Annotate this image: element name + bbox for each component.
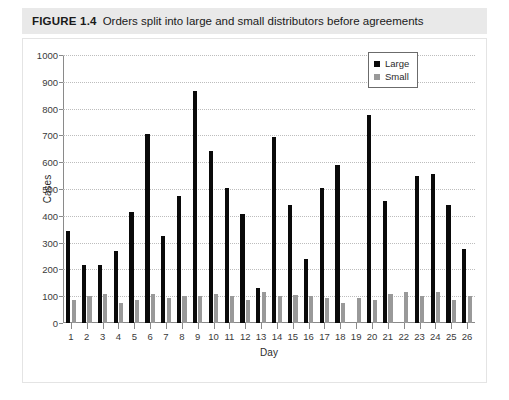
square-filled-icon — [374, 61, 380, 67]
bar-large[interactable] — [304, 259, 308, 323]
bar-large[interactable] — [225, 188, 229, 323]
x-tick-mark — [229, 323, 230, 329]
bar-group-day[interactable] — [174, 55, 190, 323]
bar-large[interactable] — [335, 165, 339, 323]
bar-small[interactable] — [103, 294, 107, 323]
bar-group-day[interactable] — [126, 55, 142, 323]
bar-small[interactable] — [404, 292, 408, 323]
bar-small[interactable] — [388, 294, 392, 323]
bar-group-day[interactable] — [317, 55, 333, 323]
bar-group-day[interactable] — [237, 55, 253, 323]
bar-group-day[interactable] — [396, 55, 412, 323]
bar-large[interactable] — [256, 288, 260, 323]
bar-group-day[interactable] — [380, 55, 396, 323]
x-tick-label: 21 — [383, 331, 394, 342]
bar-small[interactable] — [373, 300, 377, 323]
bar-large[interactable] — [320, 188, 324, 323]
bar-large[interactable] — [209, 151, 213, 323]
bar-group-day[interactable] — [95, 55, 111, 323]
bar-large[interactable] — [383, 201, 387, 323]
bar-large[interactable] — [193, 91, 197, 323]
bar-group-day[interactable] — [348, 55, 364, 323]
bar-large[interactable] — [177, 196, 181, 323]
bar-group-day[interactable] — [332, 55, 348, 323]
x-tick-label: 19 — [351, 331, 362, 342]
bar-group-day[interactable] — [158, 55, 174, 323]
bar-small[interactable] — [436, 292, 440, 323]
bar-small[interactable] — [72, 300, 76, 323]
bar-small[interactable] — [420, 296, 424, 323]
bar-large[interactable] — [129, 212, 133, 323]
bar-large[interactable] — [145, 134, 149, 323]
legend-item-label: Large — [385, 58, 409, 69]
bar-group-day[interactable] — [253, 55, 269, 323]
x-tick-mark — [87, 323, 88, 329]
x-tick-mark — [150, 323, 151, 329]
bar-small[interactable] — [293, 295, 297, 323]
bar-large[interactable] — [462, 249, 466, 323]
bar-small[interactable] — [167, 298, 171, 323]
bar-group-day[interactable] — [221, 55, 237, 323]
bar-small[interactable] — [151, 294, 155, 323]
bar-group-day[interactable] — [63, 55, 79, 323]
bar-small[interactable] — [325, 298, 329, 323]
bar-group-day[interactable] — [190, 55, 206, 323]
bar-small[interactable] — [135, 300, 139, 323]
bar-small[interactable] — [357, 298, 361, 323]
x-tick-mark — [118, 323, 119, 329]
y-tick-label: 200 — [42, 264, 58, 275]
x-tick-label: 5 — [132, 331, 137, 342]
bar-small[interactable] — [119, 303, 123, 323]
bar-large[interactable] — [66, 231, 70, 323]
bar-group-day[interactable] — [79, 55, 95, 323]
bar-small[interactable] — [214, 294, 218, 323]
bar-group-day[interactable] — [459, 55, 475, 323]
bar-group-day[interactable] — [142, 55, 158, 323]
bar-large[interactable] — [431, 174, 435, 323]
x-tick-label: 25 — [446, 331, 457, 342]
legend-item[interactable]: Large — [374, 57, 409, 70]
bar-group-day[interactable] — [412, 55, 428, 323]
bar-small[interactable] — [87, 296, 91, 323]
x-tick-mark — [277, 323, 278, 329]
x-tick-label: 10 — [208, 331, 219, 342]
bar-large[interactable] — [82, 265, 86, 323]
y-tick-label: 100 — [42, 291, 58, 302]
bar-large[interactable] — [240, 214, 244, 323]
x-tick-mark — [435, 323, 436, 329]
bar-group-day[interactable] — [285, 55, 301, 323]
bar-group-day[interactable] — [443, 55, 459, 323]
bar-group-day[interactable] — [301, 55, 317, 323]
bar-large[interactable] — [288, 205, 292, 323]
bar-large[interactable] — [98, 265, 102, 323]
bar-small[interactable] — [278, 296, 282, 323]
legend-item[interactable]: Small — [374, 70, 409, 83]
bar-group-day[interactable] — [269, 55, 285, 323]
bar-small[interactable] — [182, 296, 186, 323]
bar-small[interactable] — [468, 296, 472, 323]
x-tick-mark — [134, 323, 135, 329]
bar-large[interactable] — [272, 137, 276, 323]
bar-large[interactable] — [415, 176, 419, 323]
bar-small[interactable] — [198, 296, 202, 323]
bar-group-day[interactable] — [111, 55, 127, 323]
bar-small[interactable] — [452, 300, 456, 323]
bar-large[interactable] — [367, 115, 371, 323]
bar-small[interactable] — [309, 296, 313, 323]
bar-large[interactable] — [161, 236, 165, 323]
bar-large[interactable] — [114, 251, 118, 323]
x-tick-label: 16 — [303, 331, 314, 342]
x-tick-label: 6 — [147, 331, 152, 342]
bar-group-day[interactable] — [364, 55, 380, 323]
bar-small[interactable] — [230, 296, 234, 323]
x-tick-mark — [103, 323, 104, 329]
x-tick-mark — [214, 323, 215, 329]
bar-small[interactable] — [341, 303, 345, 323]
x-tick-mark — [261, 323, 262, 329]
x-tick-mark — [388, 323, 389, 329]
bar-group-day[interactable] — [206, 55, 222, 323]
bar-small[interactable] — [262, 292, 266, 323]
bar-small[interactable] — [246, 300, 250, 323]
bar-large[interactable] — [446, 205, 450, 323]
bar-group-day[interactable] — [427, 55, 443, 323]
